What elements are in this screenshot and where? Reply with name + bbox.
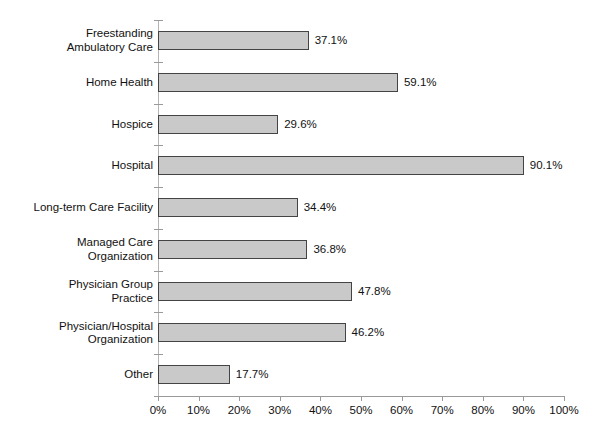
category-label: Hospice bbox=[0, 118, 153, 132]
bar bbox=[158, 365, 230, 384]
x-axis-tick-label: 90% bbox=[512, 403, 535, 417]
x-axis-tick bbox=[483, 396, 484, 401]
bar-row: 34.4% bbox=[158, 187, 564, 229]
category-label: Hospital bbox=[0, 159, 153, 173]
x-axis-tick bbox=[158, 396, 159, 401]
bar-value-label: 17.7% bbox=[236, 366, 269, 383]
bar-value-label: 59.1% bbox=[404, 74, 437, 91]
bar bbox=[158, 282, 352, 301]
bar-row: 17.7% bbox=[158, 354, 564, 396]
bar bbox=[158, 73, 398, 92]
bar bbox=[158, 115, 278, 134]
x-axis-tick-label: 30% bbox=[268, 403, 291, 417]
bar-value-label: 29.6% bbox=[284, 116, 317, 133]
category-label: Managed Care Organization bbox=[0, 236, 153, 263]
bar bbox=[158, 198, 298, 217]
category-label: Long-term Care Facility bbox=[0, 201, 153, 215]
bar-row: 90.1% bbox=[158, 145, 564, 187]
x-axis-tick bbox=[320, 396, 321, 401]
plot-area: 37.1%59.1%29.6%90.1%34.4%36.8%47.8%46.2%… bbox=[158, 20, 564, 396]
bar-value-label: 46.2% bbox=[352, 324, 385, 341]
chart-title bbox=[0, 0, 595, 1]
x-axis-tick-label: 10% bbox=[187, 403, 210, 417]
x-axis-tick bbox=[280, 396, 281, 401]
x-axis-tick bbox=[361, 396, 362, 401]
bar-row: 46.2% bbox=[158, 312, 564, 354]
bar bbox=[158, 31, 309, 50]
bar-row: 47.8% bbox=[158, 271, 564, 313]
category-label: Physician/Hospital Organization bbox=[0, 320, 153, 347]
bar-value-label: 47.8% bbox=[358, 283, 391, 300]
category-label: Other bbox=[0, 368, 153, 382]
category-label: Freestanding Ambulatory Care bbox=[0, 27, 153, 54]
bar-value-label: 36.8% bbox=[313, 241, 346, 258]
x-axis-tick bbox=[564, 396, 565, 401]
x-axis-tick-label: 50% bbox=[349, 403, 372, 417]
bar-value-label: 90.1% bbox=[530, 157, 563, 174]
x-axis-tick-label: 100% bbox=[549, 403, 578, 417]
bar bbox=[158, 156, 524, 175]
x-axis-tick bbox=[523, 396, 524, 401]
x-axis-tick bbox=[239, 396, 240, 401]
x-axis-tick bbox=[199, 396, 200, 401]
x-axis-tick-label: 20% bbox=[228, 403, 251, 417]
bar-row: 36.8% bbox=[158, 229, 564, 271]
bar-row: 37.1% bbox=[158, 20, 564, 62]
x-axis-tick-label: 70% bbox=[431, 403, 454, 417]
x-axis-tick bbox=[442, 396, 443, 401]
bar bbox=[158, 323, 346, 342]
category-label: Physician Group Practice bbox=[0, 278, 153, 305]
x-axis-tick bbox=[402, 396, 403, 401]
x-axis-tick-label: 40% bbox=[309, 403, 332, 417]
x-axis-tick-label: 60% bbox=[390, 403, 413, 417]
bar-row: 29.6% bbox=[158, 104, 564, 146]
bar-value-label: 34.4% bbox=[304, 199, 337, 216]
category-label: Home Health bbox=[0, 76, 153, 90]
bar bbox=[158, 240, 307, 259]
bar-chart: 37.1%59.1%29.6%90.1%34.4%36.8%47.8%46.2%… bbox=[0, 0, 595, 438]
x-axis-tick-label: 80% bbox=[471, 403, 494, 417]
x-axis-tick-label: 0% bbox=[150, 403, 167, 417]
bar-value-label: 37.1% bbox=[315, 32, 348, 49]
bar-row: 59.1% bbox=[158, 62, 564, 104]
